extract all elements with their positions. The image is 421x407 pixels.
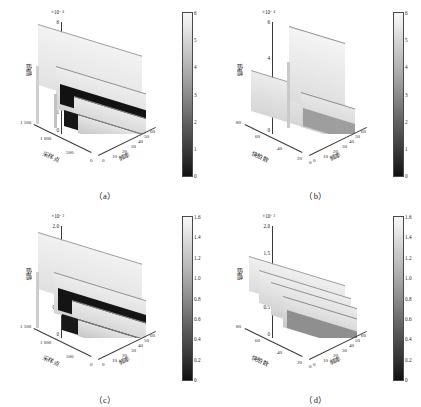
colorbar-tick: 0 [403,377,408,383]
left-axis-tick: 0 [90,158,93,163]
z-axis-label: 幅值 [235,64,244,76]
left-axis-tick: 60 [255,134,260,139]
colorbar-tick: 1.6 [192,214,200,220]
colorbar-tick: 3 [403,92,408,98]
left-axis-tick: 1 000 [40,136,51,141]
plot-area-d: ×10⁻³ 2.0 1.5 1.0 0.5 0 幅值 80 60 40 [217,208,355,384]
left-axis-tick: 1 000 [40,340,51,345]
floor-axes-c: 1 500 1 000 500 0 采样点 0 10 20 30 40 50 6… [34,328,146,384]
left-axis-tick: 1 500 [20,120,31,125]
colorbar-tick: 1.0 [403,275,411,281]
left-axis-tick: 1 500 [20,324,31,329]
z-axis-label: 幅值 [24,64,33,76]
right-axis-tick: 50 [355,134,360,139]
left-axis-label: 采样点 [41,353,61,369]
panel-caption-b: （b） [211,189,421,201]
surface-c [34,226,146,338]
right-axis-label: 频率 [117,150,132,163]
right-axis-tick: 40 [349,139,354,144]
colorbar-tick: 0.4 [192,336,200,342]
left-axis-tick: 500 [66,150,74,155]
colorbar-gradient [183,13,192,176]
right-axis-tick: 60 [150,129,155,134]
colorbar-tick: 5 [403,37,408,43]
right-axis-tick: 40 [349,343,354,348]
colorbar-d: 1.6 1.4 1.2 1.0 0.8 0.6 0.4 0.2 0 [393,216,404,381]
colorbar-tick: 0.6 [403,316,411,322]
z-axis-multiplier: ×10⁻⁴ [262,9,275,15]
colorbar-tick: 1.4 [192,234,200,240]
left-axis-tick: 0 [90,362,93,367]
right-axis-tick: 60 [361,129,366,134]
right-axis-tick: 0 [313,158,316,163]
figure-container: ×10⁻⁴ 6 5 4 3 2 1 0 幅值 [0,0,421,407]
panel-caption-d: （d） [211,393,421,405]
colorbar-gradient [394,13,403,176]
right-axis-tick: 50 [355,338,360,343]
right-axis-tick: 50 [144,134,149,139]
colorbar-tick: 0.2 [192,357,200,363]
colorbar-tick: 0.4 [403,336,411,342]
left-axis-label: 采样点 [41,149,61,165]
right-axis-label: 频率 [117,354,132,367]
left-axis-tick: 80 [236,120,241,125]
colorbar-b: 6 5 4 3 2 1 0 [393,12,404,177]
colorbar-tick: 1 [192,146,197,152]
colorbar-tick: 6 [403,10,408,16]
surface-d [245,226,357,338]
floor-axes-b: 80 60 40 20 0 快拍数 0 10 20 30 40 50 60 频率 [245,124,357,180]
right-axis-tick: 30 [131,348,136,353]
z-axis-label: 幅值 [24,268,33,280]
right-axis-tick: 0 [102,158,105,163]
colorbar-tick: 0.8 [192,296,200,302]
left-axis-label: 快拍数 [250,353,270,369]
left-axis-tick: 0 [309,160,312,165]
left-axis-tick: 40 [277,350,282,355]
left-axis-tick: 20 [297,156,302,161]
panel-a: ×10⁻⁴ 6 5 4 3 2 1 0 幅值 [0,0,210,203]
z-axis-multiplier: ×10⁻³ [262,213,275,219]
surface-a [34,22,146,134]
colorbar-tick: 0.8 [403,296,411,302]
colorbar-tick: 3 [192,92,197,98]
colorbar-tick: 1.4 [403,234,411,240]
right-axis-label: 频率 [328,150,343,163]
colorbar-tick: 1.6 [403,214,411,220]
right-axis-label: 频率 [328,354,343,367]
left-axis-tick: 60 [255,338,260,343]
right-axis-tick: 40 [138,343,143,348]
colorbar-tick: 0 [403,173,408,179]
plot-area-c: ×10⁻³ 2.0 1.5 1.0 0.5 0 幅值 1 500 [6,208,144,384]
left-axis-tick: 80 [236,324,241,329]
panel-caption-a: （a） [0,189,210,201]
right-axis-tick: 50 [144,338,149,343]
colorbar-tick: 2 [403,119,408,125]
floor-axes-d: 80 60 40 20 0 快拍数 0 10 20 30 40 50 60 频率 [245,328,357,384]
right-axis-tick: 40 [138,139,143,144]
colorbar-tick: 0.2 [403,357,411,363]
colorbar-a: 6 5 4 3 2 1 0 [182,12,193,177]
surface-b [245,22,357,134]
colorbar-tick: 0.6 [192,316,200,322]
colorbar-tick: 4 [192,64,197,70]
colorbar-gradient [394,217,403,380]
z-axis-multiplier: ×10⁻⁴ [51,9,64,15]
colorbar-tick: 0 [192,173,197,179]
right-axis-tick: 60 [361,333,366,338]
colorbar-tick: 1.2 [403,255,411,261]
colorbar-gradient [183,217,192,380]
left-axis-label: 快拍数 [250,149,270,165]
colorbar-tick: 6 [192,10,197,16]
right-axis-tick: 30 [342,348,347,353]
right-axis-tick: 30 [342,144,347,149]
plot-area-a: ×10⁻⁴ 6 5 4 3 2 1 0 幅值 [6,4,144,180]
panel-b: ×10⁻⁴ 6 4 2 0 幅值 80 60 40 20 [211,0,421,203]
left-axis-tick: 0 [309,364,312,369]
right-axis-tick: 60 [150,333,155,338]
colorbar-tick: 4 [403,64,408,70]
left-axis-tick: 500 [66,354,74,359]
left-axis-tick: 40 [277,146,282,151]
panel-caption-c: （c） [0,393,210,405]
left-axis-tick: 20 [297,360,302,365]
panel-c: ×10⁻³ 2.0 1.5 1.0 0.5 0 幅值 1 500 [0,204,210,407]
